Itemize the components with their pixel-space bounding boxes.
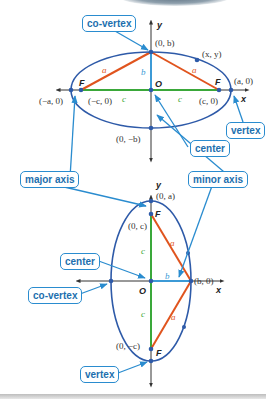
point-vertex-bottom-2 [149, 359, 154, 364]
label-a-top-2: a [170, 238, 175, 248]
label-focus-left: (−c, 0) [88, 96, 112, 106]
vertical-ellipse-figure: y x (0, a) (0, c) (0, −c) (b, 0) F F O a… [78, 180, 222, 385]
pointer-major-axis-top [70, 96, 75, 178]
point-focus-bottom-2 [149, 347, 154, 352]
label-co-vertex-bottom: (0, −b) [116, 134, 141, 144]
callout-center-top: center [190, 140, 230, 157]
point-center [149, 88, 154, 93]
label-a-bottom-2: a [171, 312, 176, 322]
x-axis-label-2: x [215, 285, 222, 295]
x-axis-label: x [240, 94, 247, 104]
pointer-major-axis-bottom [60, 186, 146, 206]
point-co-vertex-top [149, 50, 154, 55]
point-focus-right [217, 88, 222, 93]
y-axis-label-2: y [155, 180, 162, 190]
label-focus-F-left: F [79, 78, 85, 88]
point-co-vertex-left-2 [109, 279, 114, 284]
label-c-bottom-2: c [141, 309, 145, 319]
point-co-vertex-right-2 [189, 279, 194, 284]
pointer-co-vertex-bottom [80, 284, 107, 294]
label-vertex-left: (−a, 0) [39, 96, 63, 106]
label-c-right: c [178, 94, 182, 104]
label-vertex-top-2: (0, a) [156, 191, 175, 201]
point-general-3 [182, 325, 186, 329]
point-vertex-right [229, 88, 234, 93]
callout-minor-axis: minor axis [188, 171, 248, 188]
point-vertex-top-2 [149, 199, 154, 204]
point-focus-left [79, 88, 84, 93]
pointer-center-top [155, 95, 188, 147]
label-focus-F-bottom: F [156, 348, 162, 358]
label-focus-top-2: (0, c) [128, 221, 147, 231]
point-vertex-left [69, 88, 74, 93]
pointer-minor-axis-bottom [179, 186, 212, 277]
label-focus-bottom-2: (0, −c) [116, 341, 140, 351]
y-axis-label: y [156, 20, 163, 30]
page-bottom-rule [0, 394, 266, 399]
label-vertex-right: (a, 0) [234, 76, 253, 86]
callout-vertex-bottom: vertex [80, 366, 119, 383]
label-a-right: a [192, 65, 197, 75]
label-focus-F-top: F [155, 209, 161, 219]
horizontal-ellipse-figure: y x (0, b) (0, −b) (x, y) (a, 0) (−a, 0)… [39, 20, 253, 160]
callout-co-vertex-bottom: co-vertex [28, 287, 82, 304]
callout-center-bottom: center [60, 253, 100, 270]
label-co-vertex-right-2: (b, 0) [194, 276, 214, 286]
label-c-top-2: c [141, 246, 145, 256]
label-co-vertex-top: (0, b) [155, 38, 175, 48]
label-center-O: O [155, 79, 162, 89]
ellipse-diagram: y x (0, b) (0, −b) (x, y) (a, 0) (−a, 0)… [0, 0, 266, 399]
label-focus-F-right: F [215, 77, 221, 87]
pointer-vertex-bottom [118, 362, 147, 373]
point-focus-top-2 [149, 212, 154, 217]
callout-vertex-top: vertex [226, 122, 265, 139]
label-b-2: b [165, 271, 170, 281]
label-a-left: a [102, 65, 107, 75]
point-co-vertex-bottom [149, 126, 154, 131]
label-center-O-2: O [139, 286, 146, 296]
label-general-point: (x, y) [202, 49, 222, 59]
pointer-center-bottom [96, 260, 145, 278]
label-focus-right: (c, 0) [199, 96, 218, 106]
label-c-left: c [122, 94, 126, 104]
point-center-2 [149, 279, 154, 284]
callout-major-axis: major axis [20, 171, 79, 188]
point-general [195, 58, 200, 63]
callout-co-vertex-top: co-vertex [82, 15, 136, 32]
label-b: b [141, 67, 146, 77]
